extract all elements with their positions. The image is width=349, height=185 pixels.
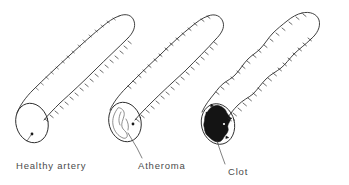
clot-residual-lumen [223, 123, 225, 125]
healthy-artery-label: Healthy artery [16, 160, 86, 171]
clot-artery-hatching [228, 38, 311, 121]
atheroma-artery-upper-hatching [128, 16, 210, 88]
atheroma-label: Atheroma [138, 160, 186, 171]
artery-comparison-figure: Healthy artery Atheroma Clot [0, 0, 349, 185]
atheroma-leader-line [128, 133, 142, 158]
clot-label: Clot [228, 166, 248, 177]
healthy-artery-drawing [11, 15, 135, 147]
healthy-artery-hatching [45, 41, 131, 122]
atheroma-lumen-dot [132, 123, 135, 126]
clot-artery-upper-hatching [216, 14, 306, 94]
healthy-artery-upper-hatching [36, 18, 115, 90]
atheroma-plaque [113, 108, 129, 138]
clot-artery-drawing [197, 12, 319, 164]
